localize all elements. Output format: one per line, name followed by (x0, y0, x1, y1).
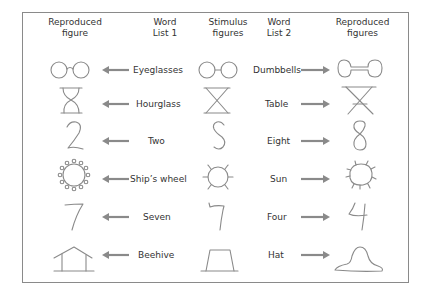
word-list-2-item: Hat (268, 250, 284, 261)
arrow-left-icon (102, 137, 130, 145)
reproduced-eyeglasses-figure (50, 60, 100, 80)
reproduced-hourglass-figure (58, 86, 88, 114)
word-list-2-item: Dumbbells (253, 65, 301, 76)
reproduced-seven-figure (62, 202, 88, 232)
reproduced-beehive-figure (52, 244, 98, 274)
header-reproduced-figure-1: Reproduced figure (40, 17, 110, 39)
word-list-2-item: Table (265, 99, 288, 110)
stimulus-figure-4 (200, 160, 236, 194)
word-list-1-item: Seven (143, 212, 171, 223)
stimulus-figure-1 (198, 60, 243, 80)
word-list-1-item: Ship’s wheel (130, 174, 187, 185)
arrow-right-icon (301, 175, 331, 183)
reproduced-table-figure (340, 84, 378, 116)
header-reproduced-figures-2: Reproduced figures (325, 17, 400, 39)
arrow-right-icon (301, 137, 331, 145)
word-list-1-item: Hourglass (136, 99, 181, 110)
word-list-1-item: Beehive (138, 250, 174, 261)
arrow-left-icon (102, 213, 130, 221)
word-list-2-item: Four (267, 212, 287, 223)
reproduced-two-figure (64, 120, 86, 152)
word-list-2-item: Eight (267, 136, 290, 147)
arrow-right-icon (301, 213, 331, 221)
header-word-list-1: Word List 1 (140, 17, 190, 39)
reproduced-dumbbells-figure (337, 58, 387, 80)
word-list-1-item: Eyeglasses (133, 65, 183, 76)
reproduced-hat-figure (333, 244, 385, 274)
word-list-2-item: Sun (270, 174, 287, 185)
reproduced-sun-figure (342, 158, 380, 194)
reproduced-eight-figure (350, 120, 370, 152)
arrow-right-icon (301, 251, 331, 259)
header-word-list-2: Word List 2 (254, 17, 304, 39)
word-list-1-item: Two (148, 136, 165, 147)
header-stimulus-figures: Stimulus figures (198, 17, 258, 39)
stimulus-figure-3 (210, 120, 230, 152)
stimulus-figure-2 (203, 86, 233, 114)
arrow-right-icon (301, 66, 331, 74)
stimulus-figure-6 (200, 244, 240, 274)
arrow-right-icon (301, 100, 331, 108)
arrow-left-icon (102, 251, 130, 259)
stimulus-figure-5 (206, 202, 230, 232)
reproduced-four-figure (345, 201, 375, 233)
arrow-left-icon (102, 100, 130, 108)
arrow-left-icon (102, 175, 130, 183)
arrow-left-icon (102, 66, 130, 74)
reproduced-ships-wheel-figure (55, 156, 93, 194)
